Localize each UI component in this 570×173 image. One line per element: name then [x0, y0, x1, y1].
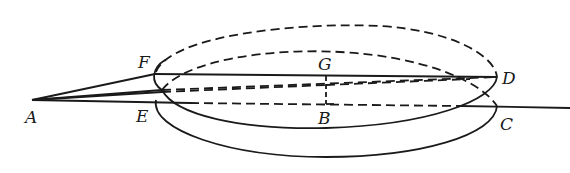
label-A: A	[23, 107, 37, 127]
label-C: C	[500, 114, 513, 134]
line-AE	[32, 100, 190, 103]
line-crossing-D-lower	[162, 85, 326, 92]
label-B: B	[317, 108, 331, 128]
label-D: D	[501, 68, 516, 88]
label-E: E	[135, 106, 149, 126]
label-G: G	[318, 54, 332, 74]
line-C-extension	[460, 106, 570, 108]
line-crossing-D-upper	[162, 77, 497, 90]
geometry-diagram: A F E G B D C	[0, 0, 570, 173]
line-EB-C-dashed	[190, 103, 460, 106]
label-F: F	[137, 52, 151, 72]
upper-ellipse-left-arc	[154, 60, 165, 90]
